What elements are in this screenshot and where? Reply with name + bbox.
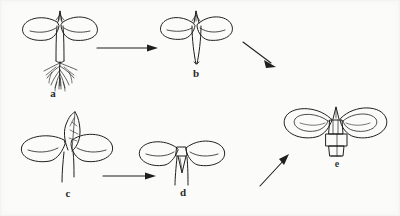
arrow-a-to-b	[97, 45, 158, 52]
arrow-d-to-e	[260, 154, 289, 186]
stage-b-drawing	[161, 11, 233, 64]
stage-a-drawing	[23, 11, 98, 91]
stage-label-d: d	[176, 187, 190, 198]
arrow-b-to-d	[243, 42, 276, 68]
stage-label-b: b	[189, 68, 203, 79]
stage-label-c: c	[61, 188, 75, 199]
stage-c-drawing	[21, 112, 112, 182]
stage-label-a: a	[46, 88, 60, 99]
seedling-stages-figure: a b c d e seedling developmental stages	[0, 0, 400, 216]
arrow-c-to-d	[103, 173, 156, 180]
stage-d-drawing	[139, 141, 224, 185]
stage-e-drawing	[284, 107, 387, 156]
stage-label-e: e	[330, 158, 344, 169]
figure-drawing-canvas	[0, 0, 400, 216]
